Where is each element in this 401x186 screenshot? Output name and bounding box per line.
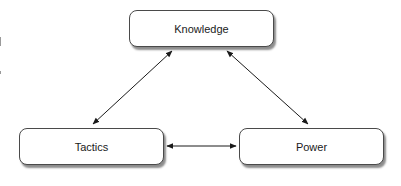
node-label: Power <box>296 141 327 153</box>
node-tactics[interactable]: Tactics <box>19 128 164 165</box>
node-label: Knowledge <box>174 23 228 35</box>
node-label: Tactics <box>75 141 109 153</box>
arrow-knowledge-power <box>227 51 308 124</box>
arrow-knowledge-tactics <box>93 51 172 124</box>
node-power[interactable]: Power <box>239 128 384 165</box>
node-knowledge[interactable]: Knowledge <box>129 10 274 47</box>
